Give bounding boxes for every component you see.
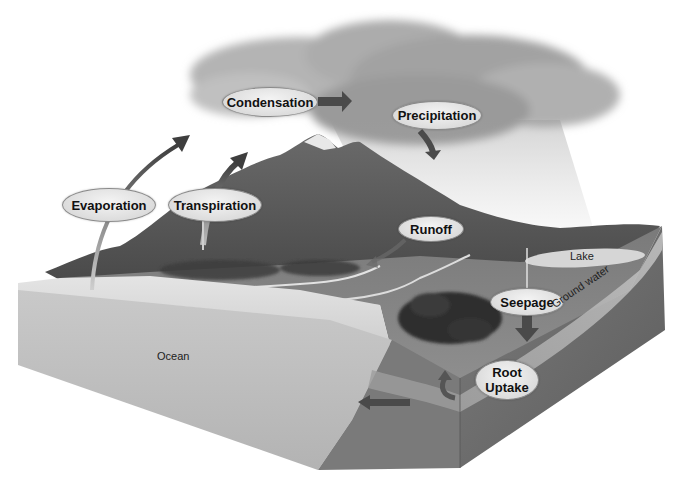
water-cycle-diagram: Condensation Precipitation Evaporation T… — [0, 0, 680, 492]
groundwater-flow-arrow — [370, 399, 410, 406]
label-condensation: Condensation — [222, 87, 318, 117]
label-root-uptake: Root Uptake — [475, 360, 539, 400]
block-diagram-illustration — [0, 0, 680, 492]
label-root-uptake-line1: Root — [492, 365, 522, 380]
evaporation-arrowhead — [172, 135, 190, 152]
label-transpiration: Transpiration — [168, 188, 262, 222]
label-runoff: Runoff — [398, 216, 464, 242]
label-evaporation: Evaporation — [62, 188, 156, 222]
label-ocean: Ocean — [157, 350, 189, 362]
tree-grove — [398, 292, 502, 344]
label-lake: Lake — [570, 250, 594, 262]
condensation-arrow — [318, 97, 342, 106]
label-root-uptake-line2: Uptake — [485, 380, 528, 395]
label-precipitation: Precipitation — [392, 101, 482, 130]
